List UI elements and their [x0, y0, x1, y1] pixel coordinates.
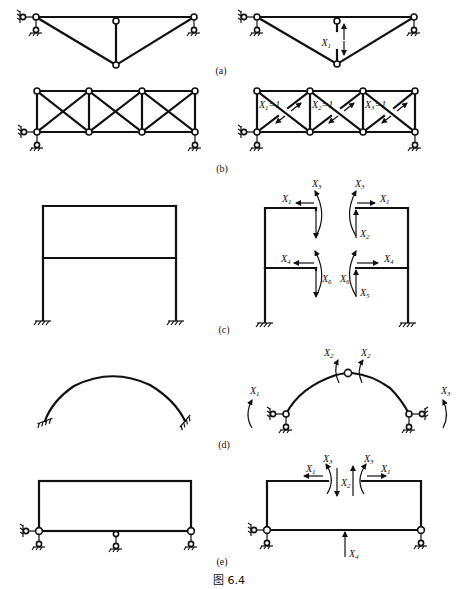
redundant-label: X2=1	[311, 99, 333, 112]
redundant-label: X1	[281, 193, 292, 206]
crown-hinge-icon	[344, 369, 351, 376]
redundant-label: X3	[311, 178, 322, 191]
redundant-label: X4	[383, 253, 394, 266]
panel-label-a: (a)	[215, 65, 226, 77]
redundant-label: X5	[359, 287, 370, 300]
redundant-label: X2	[359, 228, 370, 241]
redundant-label: X1	[320, 37, 331, 50]
redundant-label: X1	[305, 463, 316, 476]
panel-a-primary-system: X1	[238, 10, 420, 67]
redundant-label: X1=1	[258, 99, 280, 112]
redundant-label: X2	[340, 477, 351, 490]
panel-d-primary-system: X1 X3 X2 X2	[248, 347, 451, 433]
redundant-label: X3	[363, 453, 374, 466]
redundant-label: X1	[380, 463, 391, 476]
redundant-label: X4	[280, 253, 291, 266]
redundant-label: X6	[339, 273, 350, 286]
fixed-support-icon	[179, 415, 193, 431]
panel-c-original-frame	[34, 206, 184, 325]
redundant-label: X2	[360, 347, 371, 360]
panel-d-original-arch	[37, 376, 194, 430]
redundant-label: X1	[379, 193, 390, 206]
panel-e-primary-system: X1 X1 X3 X3 X2 X4	[248, 453, 427, 561]
redundant-label: X1	[249, 385, 260, 398]
panel-c-primary-system: X1 X1 X3 X3 X2 X4 X4 X6 X6 X5	[256, 178, 416, 327]
fixed-support-icon	[34, 321, 51, 325]
redundant-label: X3	[354, 178, 365, 191]
side-support-icon	[17, 10, 33, 23]
redundant-label: X6	[321, 273, 332, 286]
redundant-label: X3=1	[364, 99, 386, 112]
figure-caption: 图 6.4	[213, 574, 245, 587]
fixed-support-icon	[167, 321, 184, 325]
structural-mechanics-figure: X1 (a)	[0, 0, 459, 589]
panel-label-b: (b)	[216, 163, 228, 175]
panel-b-primary-system: X1=1 X2=1 X3=1	[238, 88, 421, 151]
panel-label-d: (d)	[218, 439, 230, 451]
redundant-label: X3	[440, 385, 451, 398]
panel-label-c: (c)	[218, 324, 229, 336]
redundant-label: X3	[322, 453, 333, 466]
panel-b-original-truss	[18, 88, 201, 151]
panel-a-original-truss	[17, 10, 200, 68]
panel-e-original-frame	[20, 481, 197, 552]
pin-support-icon	[29, 20, 42, 36]
redundant-label: X2	[323, 347, 334, 360]
panel-label-e: (e)	[216, 556, 227, 568]
redundant-label: X4	[348, 548, 359, 561]
pin-support-icon	[187, 20, 200, 36]
